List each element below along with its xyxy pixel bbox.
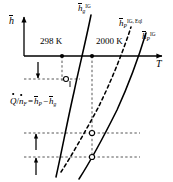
equation-q-symbol: Q	[10, 96, 17, 106]
tick-label-298k-text: 298 K	[40, 36, 62, 46]
curve-label-hg-ig-symbol: h	[78, 3, 83, 13]
equation-n-symbol: n	[19, 96, 24, 106]
tick-label-2000k-text: 2000 K	[96, 36, 123, 46]
tick-dot-2000k	[90, 54, 94, 58]
heat-release-equation: Q/nF=hP−hg	[10, 96, 56, 106]
equation-minus: −	[42, 96, 49, 106]
marker-hg-298k	[64, 77, 69, 82]
equation-hg-sub: g	[54, 101, 57, 107]
tick-label-298k: 298 K	[40, 37, 62, 46]
marker-eql-2000k	[89, 130, 94, 135]
curve-label-hp-ig-sup: IG	[150, 31, 156, 37]
tick-label-2000k: 2000 K	[96, 37, 123, 46]
x-axis-label-text: T	[156, 58, 162, 69]
tick-dot-298k	[60, 54, 64, 58]
equation-equals: =	[27, 96, 34, 106]
enthalpy-temperature-diagram: h T 298 K 2000 K hgIG hPIG, Eql hPIG Q/n…	[0, 0, 173, 182]
equation-hg-symbol: h	[49, 96, 54, 106]
guide-lines	[24, 56, 140, 160]
curve-label-hp-ig-eql-sup: IG, Eql	[127, 18, 142, 24]
equation-hp-sub: P	[39, 101, 42, 107]
y-axis-label-text: h	[9, 15, 14, 26]
curve-label-hg-ig: hgIG	[78, 4, 91, 13]
diagram-canvas	[0, 0, 173, 182]
y-axis-label: h	[9, 16, 14, 26]
measure-arrows	[36, 62, 38, 175]
curve-label-hp-ig: hPIG	[142, 32, 155, 41]
equation-n-sub: F	[24, 101, 27, 107]
equation-hp-symbol: h	[34, 96, 39, 106]
marker-hp-2000k	[89, 154, 94, 159]
curve-label-hp-ig-eql: hPIG, Eql	[119, 19, 142, 28]
x-axis-label: T	[156, 59, 162, 69]
curve-label-hg-ig-sup: IG	[85, 3, 91, 9]
curve-label-hp-ig-symbol: h	[142, 31, 147, 41]
curve-label-hp-ig-eql-symbol: h	[119, 18, 124, 28]
